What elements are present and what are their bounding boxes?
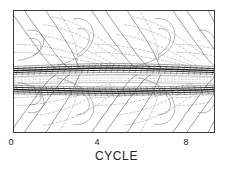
contour-figure: 0 4 8 CYCLE [0, 0, 233, 170]
dense-band-upper [14, 63, 214, 75]
plot-area [13, 10, 215, 133]
contour-plot-canvas [14, 11, 214, 132]
xtick-label-4: 4 [90, 138, 104, 147]
x-axis-title: CYCLE [0, 149, 233, 163]
mid-gap-dashed-contours [14, 75, 214, 82]
xtick-label-0: 0 [4, 138, 18, 147]
xtick-label-8: 8 [179, 138, 193, 147]
dense-band-lower [14, 85, 214, 96]
